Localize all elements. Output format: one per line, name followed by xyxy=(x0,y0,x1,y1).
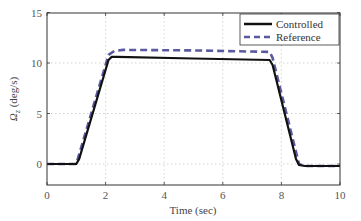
x-tick-label: 8 xyxy=(279,189,285,201)
x-axis-label: Time (sec) xyxy=(170,204,217,217)
line-chart: 0246810051015 Time (sec) Ωz (deg/s) Cont… xyxy=(0,0,361,221)
y-tick-label: 15 xyxy=(31,7,43,19)
x-tick-label: 4 xyxy=(161,189,167,201)
x-tick-label: 6 xyxy=(220,189,226,201)
data-series xyxy=(47,50,340,166)
legend-label-reference: Reference xyxy=(276,31,321,43)
y-axis-label-unit: (deg/s) xyxy=(7,76,20,110)
y-axis-label: Ωz (deg/s) xyxy=(7,76,22,121)
y-axis-label-symbol: Ω xyxy=(7,113,19,121)
y-tick-label: 10 xyxy=(31,57,43,69)
svg-text:Ωz (deg/s): Ωz (deg/s) xyxy=(7,76,22,121)
legend: Controlled Reference xyxy=(240,14,339,45)
x-tick-label: 2 xyxy=(103,189,109,201)
y-tick-label: 0 xyxy=(37,158,43,170)
series-line-reference xyxy=(47,50,340,166)
x-tick-label: 10 xyxy=(335,189,347,201)
legend-label-controlled: Controlled xyxy=(276,18,324,30)
x-tick-label: 0 xyxy=(44,189,50,201)
y-tick-label: 5 xyxy=(37,108,43,120)
